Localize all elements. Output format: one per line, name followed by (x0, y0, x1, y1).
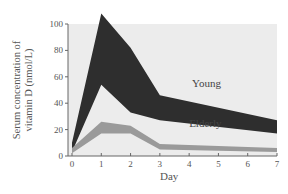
vitamin-d-chart: 02040608010001234567YoungElderly (0, 0, 288, 194)
y-tick-label: 0 (59, 151, 64, 161)
x-tick-label: 1 (99, 159, 104, 169)
x-tick-label: 2 (128, 159, 133, 169)
x-tick-label: 0 (70, 159, 75, 169)
x-tick-label: 3 (158, 159, 163, 169)
y-axis-label-line-2: vitamin D (nmol/L) (23, 5, 35, 175)
x-tick-label: 5 (216, 159, 221, 169)
x-tick-label: 4 (187, 159, 192, 169)
y-tick-label: 80 (54, 45, 64, 55)
y-axis-label: Serum concentration of vitamin D (nmol/L… (11, 5, 35, 175)
y-axis-label-line-1: Serum concentration of (11, 5, 23, 175)
x-tick-label: 7 (275, 159, 280, 169)
series-label-elderly: Elderly (189, 117, 222, 129)
y-tick-label: 20 (54, 125, 64, 135)
x-axis-label: Day (160, 170, 178, 182)
y-tick-label: 40 (54, 98, 64, 108)
y-tick-label: 100 (50, 19, 64, 29)
x-tick-label: 6 (245, 159, 250, 169)
y-tick-label: 60 (54, 72, 64, 82)
series-label-young: Young (192, 77, 221, 89)
